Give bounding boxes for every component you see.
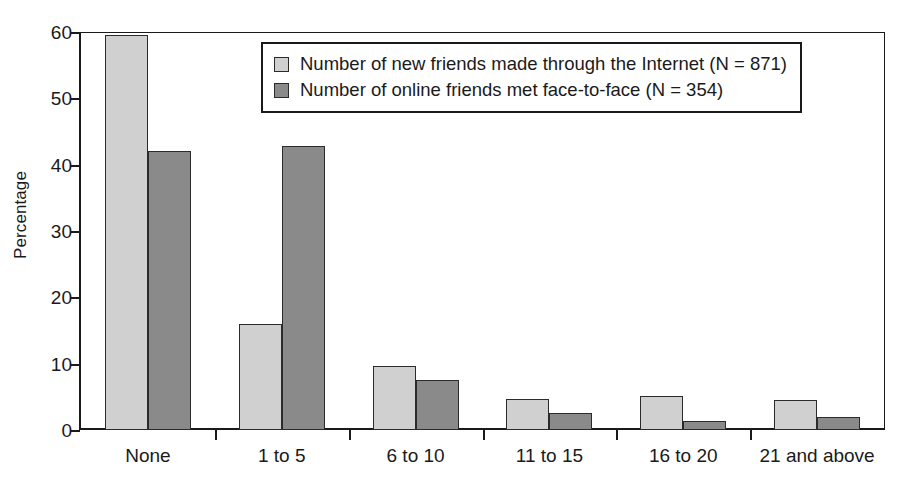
x-axis-category-labels: None1 to 56 to 1011 to 1516 to 2021 and … <box>79 446 885 476</box>
y-axis-tick-label: 40 <box>51 155 72 174</box>
y-axis-tick-label: 60 <box>51 23 72 42</box>
legend-label-new-friends: Number of new friends made through the I… <box>300 55 787 74</box>
bar <box>373 366 416 430</box>
chart-legend: Number of new friends made through the I… <box>261 42 802 113</box>
x-axis-category-label: 1 to 5 <box>258 446 306 467</box>
y-axis-tick-label: 50 <box>51 89 72 108</box>
x-axis-category-label: 6 to 10 <box>387 446 445 467</box>
x-axis-category-label: None <box>125 446 170 467</box>
bar <box>506 399 549 430</box>
legend-swatch-met-face-to-face-icon <box>274 83 289 98</box>
bar <box>105 35 148 430</box>
bar <box>683 421 726 430</box>
x-axis-tick-mark <box>616 430 618 440</box>
x-axis-ticks <box>79 430 885 441</box>
legend-swatch-new-friends-icon <box>274 57 289 72</box>
x-axis-tick-mark <box>750 430 752 440</box>
x-axis-category-label: 21 and above <box>759 446 874 467</box>
legend-label-met-face-to-face: Number of online friends met face-to-fac… <box>300 81 723 100</box>
y-axis-title: Percentage <box>5 0 37 430</box>
bar <box>817 417 860 430</box>
x-axis-category-label: 11 to 15 <box>516 446 583 467</box>
bar <box>549 413 592 430</box>
bar <box>148 151 191 430</box>
x-axis-tick-mark <box>483 430 485 440</box>
bar-group <box>81 32 215 430</box>
x-axis-tick-mark <box>349 430 351 440</box>
y-axis-tick-label: 30 <box>51 222 72 241</box>
bar <box>774 400 817 431</box>
bar <box>640 396 683 430</box>
bar <box>239 324 282 430</box>
y-axis-tick-labels: 0102030405060 <box>38 32 72 430</box>
y-axis-tick-label: 20 <box>51 288 72 307</box>
legend-entry-1: Number of online friends met face-to-fac… <box>274 77 787 103</box>
bar-chart: Percentage 0102030405060 None1 to 56 to … <box>0 0 898 500</box>
x-axis-category-label: 16 to 20 <box>649 446 718 467</box>
bar <box>416 380 459 430</box>
x-axis-tick-mark <box>215 430 217 440</box>
y-axis-tick-label: 10 <box>51 354 72 373</box>
legend-entry-0: Number of new friends made through the I… <box>274 51 787 77</box>
bar <box>282 146 325 430</box>
y-axis-title-text: Percentage <box>11 171 31 259</box>
